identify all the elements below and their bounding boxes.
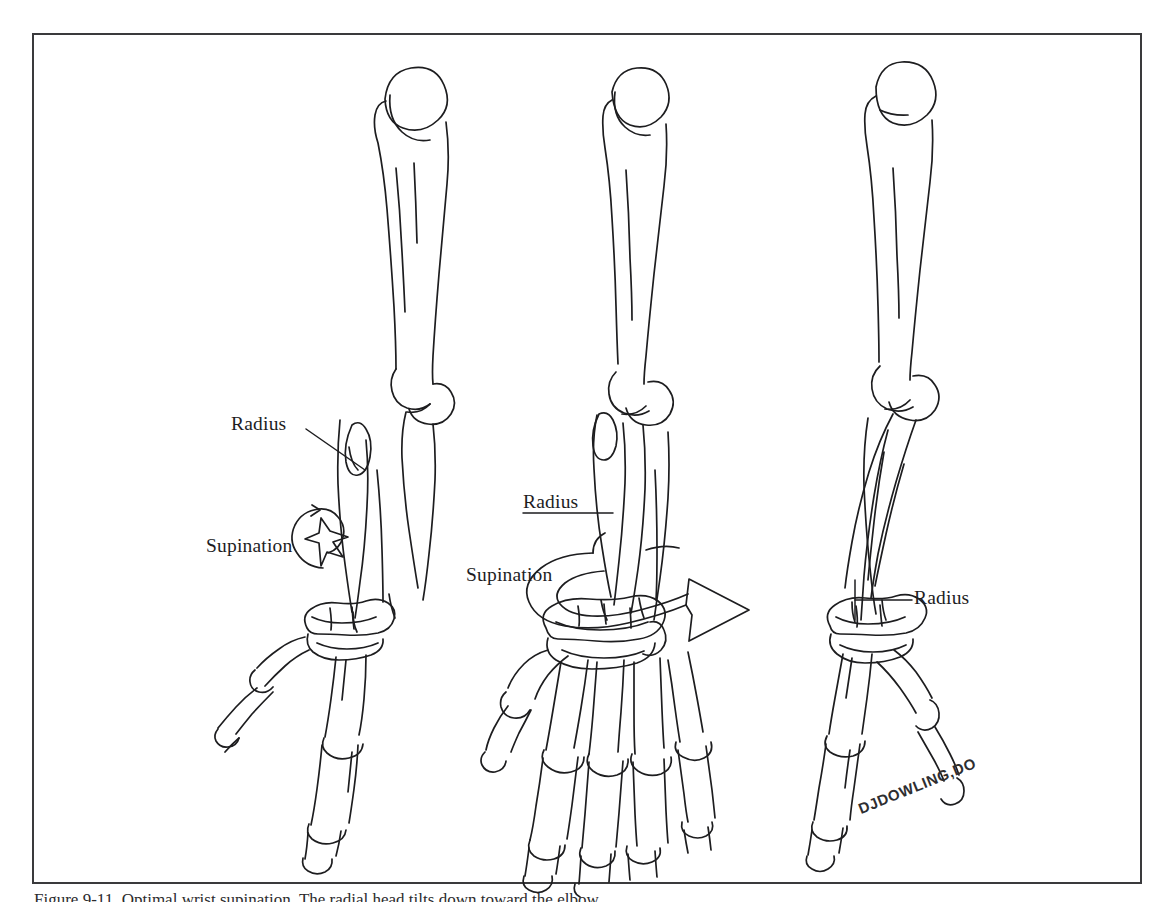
label-supination-middle: Supination xyxy=(466,564,553,586)
figure-plate: Radius Supination Radius Supination Radi… xyxy=(0,0,1170,902)
figure-caption: Figure 9-11. Optimal wrist supination. T… xyxy=(34,889,1134,902)
plate-border xyxy=(32,33,1142,884)
label-radius-middle: Radius xyxy=(523,491,578,513)
label-radius-left: Radius xyxy=(231,413,286,435)
label-supination-left: Supination xyxy=(206,535,293,557)
label-radius-right: Radius xyxy=(914,587,969,609)
